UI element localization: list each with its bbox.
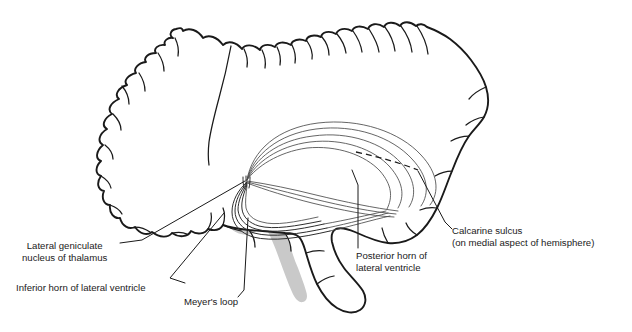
label-lateral-geniculate: Lateral geniculate nucleus of thalamus: [22, 240, 107, 263]
label-posterior-horn: Posterior horn of lateral ventricle: [356, 250, 427, 273]
label-inferior-horn: Inferior horn of lateral ventricle: [16, 282, 146, 294]
label-calcarine-sulcus-line2: (on medial aspect of hemisphere): [452, 237, 594, 249]
label-meyers-loop: Meyer's loop: [184, 296, 238, 308]
label-posterior-horn-line2: lateral ventricle: [356, 262, 427, 274]
label-lateral-geniculate-line2: nucleus of thalamus: [22, 252, 107, 264]
label-lateral-geniculate-line1: Lateral geniculate: [22, 240, 107, 252]
label-meyers-loop-line1: Meyer's loop: [184, 296, 238, 308]
label-posterior-horn-line1: Posterior horn of: [356, 250, 427, 262]
brain-optic-radiation-figure: Lateral geniculate nucleus of thalamus I…: [0, 0, 632, 332]
label-calcarine-sulcus-line1: Calcarine sulcus: [452, 225, 594, 237]
label-inferior-horn-line1: Inferior horn of lateral ventricle: [16, 282, 146, 294]
label-calcarine-sulcus: Calcarine sulcus (on medial aspect of he…: [452, 225, 594, 248]
